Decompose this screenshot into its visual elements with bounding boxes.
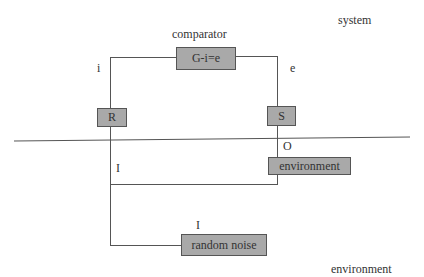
R-box: R (97, 108, 127, 127)
comparator-box-text: G-i=e (192, 51, 220, 66)
comparator-label: comparator (172, 27, 227, 42)
line-left-vertical (110, 57, 111, 246)
S-box-text: S (278, 109, 285, 124)
system-label: system (338, 13, 371, 28)
line-comparator-left (110, 57, 176, 58)
line-comparator-right (235, 56, 278, 57)
system-environment-boundary (14, 137, 410, 141)
noise-I-label: I (196, 218, 200, 233)
comparator-box: G-i=e (176, 47, 236, 70)
R-box-text: R (108, 110, 116, 125)
random-noise-box-text: random noise (192, 238, 257, 253)
output-O-label: O (283, 139, 292, 154)
input-i-label: i (97, 61, 100, 76)
environment-box-text: environment (279, 159, 340, 174)
environment-box: environment (268, 157, 351, 175)
environment-bottom-label: environment (331, 262, 392, 277)
S-box: S (267, 106, 296, 126)
input-I-label: I (116, 161, 120, 176)
line-environment-loop (110, 184, 278, 185)
error-e-label: e (290, 61, 295, 76)
random-noise-box: random noise (181, 234, 267, 256)
line-random-noise (110, 245, 182, 246)
